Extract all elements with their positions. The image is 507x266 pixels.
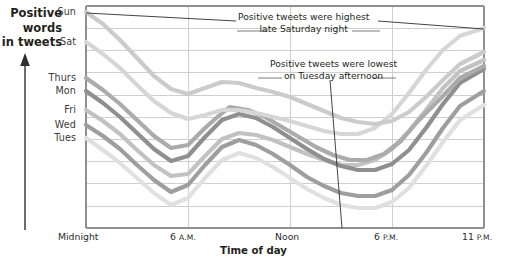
leader-highest-left: [86, 13, 236, 21]
plot-area: [0, 0, 507, 266]
x-tick-11pm-small: P.M.: [477, 233, 493, 242]
x-tick-noon-main: Noon: [275, 231, 299, 242]
x-tick-6am-small: A.M.: [179, 233, 196, 242]
y-axis-arrow: [20, 53, 30, 230]
x-tick-noon: Noon: [275, 231, 299, 242]
x-tick-6pm-small: P.M.: [383, 233, 399, 242]
annotation-highest-line2: late Saturday night: [238, 23, 369, 35]
x-tick-6pm: 6 P.M.: [374, 231, 398, 242]
annotation-lowest: Positive tweets were lowest on Tuesday a…: [270, 58, 397, 81]
chart-figure: Sun Positive words in tweets Sun Sat Thu…: [0, 0, 507, 266]
x-tick-11pm: 11 P.M.: [462, 231, 492, 242]
x-tick-6am-main: 6: [170, 231, 176, 242]
annotation-highest-line1: Positive tweets were highest: [238, 11, 369, 23]
series-path-sat: [86, 28, 484, 134]
annotation-lowest-line1: Positive tweets were lowest: [270, 58, 397, 70]
x-tick-midnight: Midnight: [58, 231, 98, 242]
annotation-highest: Positive tweets were highest late Saturd…: [238, 11, 369, 34]
x-tick-midnight-main: Midnight: [58, 231, 98, 242]
x-axis-title: Time of day: [0, 245, 507, 256]
x-tick-6pm-main: 6: [374, 231, 380, 242]
annotation-lowest-line2: on Tuesday afternoon: [270, 70, 397, 82]
data-series-group: [86, 12, 484, 208]
x-tick-11pm-main: 11: [462, 231, 474, 242]
x-tick-6am: 6 A.M.: [170, 231, 196, 242]
